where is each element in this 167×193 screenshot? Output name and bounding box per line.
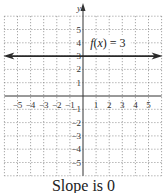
y-tick-label: 1	[77, 78, 82, 88]
y-tick-label: −3	[71, 131, 81, 141]
graph-plot: y−5−4−3−2−11234554321−1−2−3−4−5f(x) = 3	[0, 0, 167, 180]
function-label: f(x) = 3	[90, 36, 125, 50]
x-tick-label: −3	[39, 100, 49, 110]
x-tick-label: 4	[133, 100, 138, 110]
x-tick-label: 1	[94, 100, 99, 110]
y-tick-label: 5	[77, 25, 82, 35]
x-tick-label: 5	[146, 100, 151, 110]
x-tick-label: 3	[120, 100, 125, 110]
x-tick-label: 2	[107, 100, 112, 110]
y-axis-label: y	[76, 3, 81, 13]
y-tick-label: 2	[77, 64, 82, 74]
slope-caption: Slope is 0	[0, 178, 167, 193]
y-tick-label: −1	[71, 104, 81, 114]
x-tick-label: −5	[13, 100, 23, 110]
x-tick-label: −4	[26, 100, 36, 110]
y-tick-label: −4	[71, 144, 81, 154]
y-tick-label: −5	[71, 158, 81, 168]
y-axis-arrow-icon	[81, 3, 86, 11]
x-tick-label: −2	[52, 100, 62, 110]
y-tick-label: 4	[77, 38, 82, 48]
y-tick-label: −2	[71, 118, 81, 128]
